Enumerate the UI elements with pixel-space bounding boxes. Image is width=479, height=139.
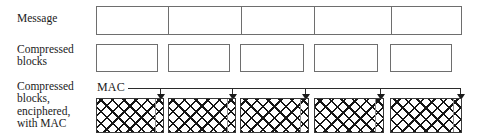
row-label-compressed-blocks: Compressed blocks [17,43,74,68]
compressed-block-3 [240,44,304,72]
ssl-record-protocol-diagram: Message Compressed blocks Compressed blo… [0,0,479,139]
mac-distribution-line [128,88,461,89]
mac-section-divider [453,99,454,132]
compressed-block-2 [168,44,230,72]
mac-section-divider [227,99,228,132]
compressed-block-4 [314,44,378,72]
mac-section-divider [155,99,156,132]
enciphered-block-3 [240,98,309,133]
message-segment-divider-4 [391,7,392,34]
row-label-message: Message [17,12,57,24]
mac-label: MAC [97,81,125,94]
row-label-compressed-blocks-enciphered-with-mac: Compressed blocks, enciphered, with MAC [17,80,74,130]
message-segment-divider-2 [241,7,242,34]
enciphered-block-2 [168,98,236,133]
compressed-block-1 [96,44,158,72]
enciphered-block-5 [390,98,462,133]
mac-section-divider [375,99,376,132]
message-segment-divider-1 [168,7,169,34]
mac-section-divider [300,99,301,132]
enciphered-block-4 [314,98,384,133]
compressed-block-5 [390,44,452,72]
message-strip [96,6,462,35]
message-segment-divider-3 [314,7,315,34]
enciphered-block-1 [96,98,164,133]
